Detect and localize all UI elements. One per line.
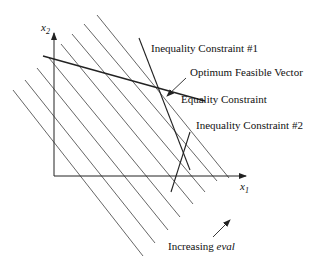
equality-constraint-label: Equality Constraint [181, 93, 267, 105]
optimum-feasible-vector-label: Optimum Feasible Vector [190, 66, 303, 78]
optimization-diagram: x2 x1 Inequality Constraint #1 Optimum F… [0, 0, 312, 269]
x-axis-label: x1 [239, 180, 249, 195]
inequality-constraint-1-label: Inequality Constraint #1 [151, 42, 258, 54]
y-axis-label: x2 [40, 21, 50, 36]
increasing-eval-arrow [213, 220, 230, 237]
increasing-eval-label: Increasing eval [168, 240, 235, 252]
inequality-constraint-2-label: Inequality Constraint #2 [196, 119, 303, 131]
